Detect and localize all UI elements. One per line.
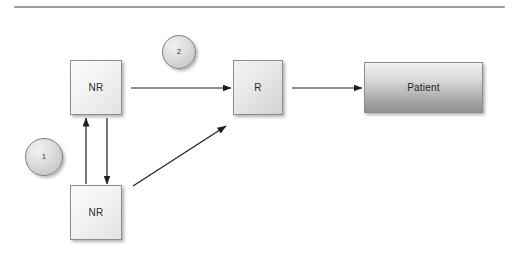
node-r[interactable]: R <box>233 60 283 115</box>
node-patient-label: Patient <box>407 83 440 93</box>
node-nr-top-label: NR <box>89 83 104 93</box>
diagram-canvas: NR NR R Patient 1 2 <box>0 0 517 272</box>
node-nr-top[interactable]: NR <box>70 60 122 115</box>
arrow-nr-bottom-to-r <box>133 126 226 186</box>
node-r-label: R <box>254 83 261 93</box>
node-nr-bottom-label: NR <box>89 208 104 218</box>
node-nr-bottom[interactable]: NR <box>70 185 122 240</box>
step-marker-1-label: 1 <box>42 153 46 161</box>
step-marker-1[interactable]: 1 <box>25 138 63 176</box>
step-marker-2-label: 2 <box>177 48 181 56</box>
node-patient[interactable]: Patient <box>364 62 483 113</box>
top-divider-rule <box>14 6 505 8</box>
step-marker-2[interactable]: 2 <box>162 35 196 69</box>
